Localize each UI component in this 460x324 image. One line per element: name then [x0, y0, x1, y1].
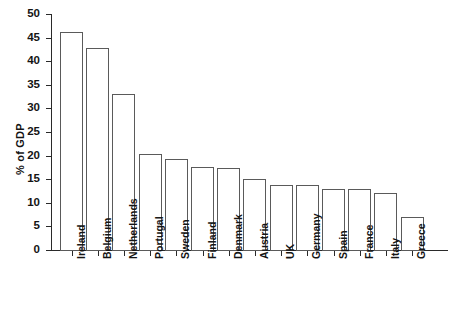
y-tick-mark: [46, 14, 51, 15]
y-tick-label: 0: [14, 244, 40, 256]
x-tick-mark: [176, 251, 177, 256]
y-tick-mark: [46, 156, 51, 157]
y-tick-mark: [46, 179, 51, 180]
y-tick-mark: [46, 226, 51, 227]
y-tick-mark: [46, 38, 51, 39]
y-tick-label: 40: [14, 55, 40, 67]
y-tick-label: 25: [14, 126, 40, 138]
x-tick-mark: [98, 251, 99, 256]
x-axis-category-label: Finland: [207, 222, 218, 259]
x-axis-category-label: Germany: [311, 213, 322, 259]
x-tick-mark: [150, 251, 151, 256]
y-tick-label: 35: [14, 79, 40, 91]
x-axis-category-label: Sweden: [180, 219, 191, 259]
y-tick-mark: [46, 108, 51, 109]
x-tick-mark: [255, 251, 256, 256]
y-tick-mark: [46, 203, 51, 204]
x-axis-category-label: UK: [285, 244, 296, 259]
x-axis-category-label: Greece: [416, 223, 427, 259]
bar: [60, 32, 83, 251]
x-axis-category-label: Netherlands: [128, 198, 139, 259]
y-tick-label: 20: [14, 150, 40, 162]
y-tick-label: 30: [14, 102, 40, 114]
y-tick-label: 10: [14, 197, 40, 209]
x-axis-category-label: Austria: [259, 223, 270, 259]
y-tick-mark: [46, 61, 51, 62]
x-axis-category-label: France: [364, 225, 375, 259]
x-tick-mark: [360, 251, 361, 256]
bar-chart: % of GDP 05101520253035404550 IrelandBel…: [0, 0, 460, 324]
x-tick-mark: [334, 251, 335, 256]
x-axis-category-label: Spain: [338, 230, 349, 259]
y-tick-label: 45: [14, 32, 40, 44]
y-tick-mark: [46, 85, 51, 86]
x-axis-category-label: Ireland: [76, 225, 87, 259]
x-tick-mark: [386, 251, 387, 256]
x-tick-mark: [124, 251, 125, 256]
y-axis-line: [51, 14, 52, 251]
y-tick-mark: [46, 250, 51, 251]
y-tick-label: 5: [14, 220, 40, 232]
x-axis-category-label: Denmark: [233, 214, 244, 259]
x-tick-mark: [307, 251, 308, 256]
x-axis-category-label: Italy: [390, 238, 401, 259]
x-tick-mark: [412, 251, 413, 256]
y-tick-mark: [46, 132, 51, 133]
x-axis-category-label: Portugal: [154, 216, 165, 259]
y-tick-label: 50: [14, 8, 40, 20]
bar: [270, 185, 293, 251]
x-tick-mark: [72, 251, 73, 256]
x-tick-mark: [203, 251, 204, 256]
x-axis-category-label: Belgium: [102, 218, 113, 259]
x-tick-mark: [229, 251, 230, 256]
y-tick-label: 15: [14, 173, 40, 185]
x-tick-mark: [281, 251, 282, 256]
